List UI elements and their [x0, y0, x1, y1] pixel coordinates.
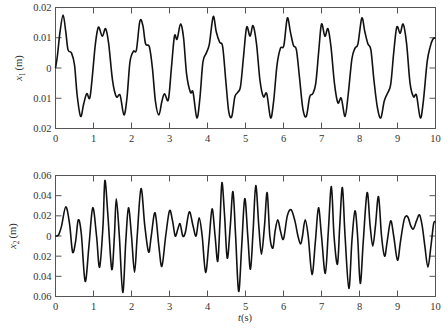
y-tick-label: 0.01 [33, 32, 51, 43]
x-tick-label: 7 [319, 133, 324, 144]
x-tick-label: 10 [430, 133, 441, 144]
x1-y-axis-label: x1(m) [13, 55, 27, 82]
x-tick-label: 6 [281, 301, 286, 312]
y-tick-label: 0.06 [33, 291, 51, 302]
x-tick-label: 2 [129, 301, 134, 312]
y-tick-label: 0 [46, 63, 51, 74]
y-tick-label: 0.02 [33, 210, 51, 221]
x-tick-label: 4 [205, 301, 211, 312]
x-tick-label: 8 [357, 133, 362, 144]
y-tick-label: 0.04 [33, 271, 52, 282]
x2-plot-frame [56, 176, 436, 297]
x-tick-label: 10 [430, 301, 441, 312]
x2-plot-panel: 0.060.040.0200.020.040.06 012345678910 x… [7, 170, 441, 324]
x-tick-label: 2 [129, 133, 134, 144]
y-tick-label: 0.02 [33, 123, 51, 134]
figure: 0.020.0100.010.02 012345678910 x1(m) 0.0… [0, 0, 448, 329]
x2-x-axis-label: t(s) [238, 312, 253, 324]
y-tick-label: 0 [46, 231, 51, 242]
x-tick-label: 7 [319, 301, 324, 312]
y-tick-label: 0.04 [33, 190, 52, 201]
x-tick-label: 8 [357, 301, 362, 312]
x-tick-label: 5 [243, 301, 248, 312]
x-tick-label: 9 [395, 301, 400, 312]
y-tick-label: 0.01 [33, 93, 51, 104]
y-tick-label: 0.02 [33, 251, 51, 262]
x-tick-label: 3 [167, 133, 172, 144]
x-tick-label: 5 [243, 133, 248, 144]
x2-y-axis-label: x2(m) [7, 223, 21, 250]
x1-plot-panel: 0.020.0100.010.02 012345678910 x1(m) [13, 2, 441, 144]
x-tick-label: 1 [91, 301, 96, 312]
x-tick-label: 0 [53, 133, 58, 144]
x-tick-label: 0 [53, 301, 58, 312]
x-tick-label: 9 [395, 133, 400, 144]
x2-signal-line [56, 180, 436, 292]
x-tick-label: 4 [205, 133, 211, 144]
x-tick-label: 1 [91, 133, 96, 144]
y-tick-label: 0.02 [33, 2, 51, 13]
x-tick-label: 3 [167, 301, 172, 312]
y-tick-label: 0.06 [33, 170, 51, 181]
x-tick-label: 6 [281, 133, 286, 144]
x1-signal-line [56, 15, 436, 118]
